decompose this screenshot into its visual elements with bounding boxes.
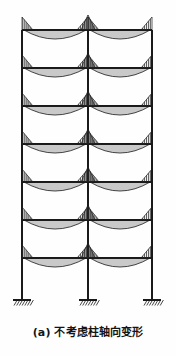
diagram-layer: [13, 15, 163, 306]
frame-diagram-svg: [0, 0, 176, 356]
sagging-moment-3层-bay1: [24, 182, 86, 191]
sagging-moment-7层-bay1: [24, 30, 86, 39]
sagging-moment-5层-bay1: [24, 106, 86, 115]
sagging-moment-2层-bay1: [24, 220, 86, 229]
sagging-moment-1层-bay1: [24, 258, 86, 267]
figure-caption: (a) 不考虑柱轴向变形: [0, 325, 176, 340]
bending-moment-figure: (a) 不考虑柱轴向变形: [0, 0, 176, 356]
sagging-moment-4层-bay1: [24, 144, 86, 153]
sagging-moment-6层-bay1: [24, 68, 86, 77]
